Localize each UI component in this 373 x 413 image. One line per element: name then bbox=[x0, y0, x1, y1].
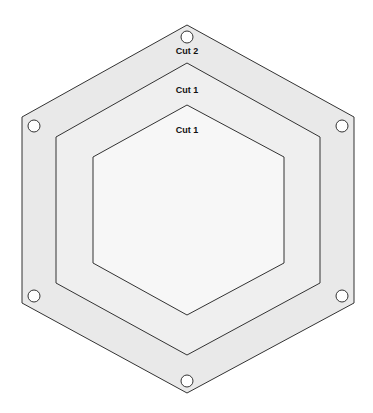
hexagon-diagram bbox=[0, 0, 373, 413]
hole-icon bbox=[28, 290, 40, 302]
hole-icon bbox=[336, 120, 348, 132]
cut-1-inner-label: Cut 1 bbox=[176, 125, 199, 135]
hole-icon bbox=[181, 375, 193, 387]
cut-1-middle-label: Cut 1 bbox=[176, 85, 199, 95]
hole-icon bbox=[28, 120, 40, 132]
cut-2-label: Cut 2 bbox=[176, 46, 199, 56]
hole-icon bbox=[181, 31, 193, 43]
hole-icon bbox=[336, 290, 348, 302]
